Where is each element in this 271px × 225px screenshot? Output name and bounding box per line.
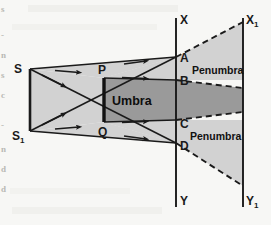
label-screen2-x1: X [246,13,254,27]
arrow-umbra-bottom [122,122,146,123]
label-screen2-x1-subscript: 1 [254,20,259,29]
margin-fragment-2: n [1,50,6,60]
figure-container: S S 1 P Q X Y X 1 Y 1 A B C D Umbra Penu… [0,0,271,225]
umbra-penumbra-diagram: S S 1 P Q X Y X 1 Y 1 A B C D Umbra Penu… [0,0,271,225]
label-point-c: C [180,117,189,131]
margin-fragment-4: c [1,90,5,100]
margin-fragment-0: s [1,4,5,14]
label-object-p: P [98,63,106,77]
margin-fragment-6: n [1,144,6,154]
label-penumbra-lower: Penumbra [190,130,242,142]
label-screen1-y: Y [180,194,188,208]
source-beam-region [30,69,104,131]
label-screen2-y1: Y [246,194,254,208]
margin-fragment-8: d [1,184,6,194]
margin-fragment-5: - [1,120,4,130]
arrow-umbra-top [122,78,146,79]
label-source-s1: S [12,129,20,143]
label-screen1-x: X [180,13,188,27]
margin-fragment-7: d [1,164,6,174]
label-source-s: S [14,62,22,76]
label-point-d: D [180,139,189,153]
margin-fragment-1: - [1,30,4,40]
label-point-b: B [180,74,189,88]
label-object-q: Q [98,125,107,139]
label-screen2-y1-subscript: 1 [254,201,259,210]
margin-fragment-3: s [1,70,5,80]
label-source-s1-subscript: 1 [20,136,25,145]
label-umbra: Umbra [112,94,153,108]
label-penumbra-upper: Penumbra [192,64,244,76]
label-point-a: A [180,51,189,65]
